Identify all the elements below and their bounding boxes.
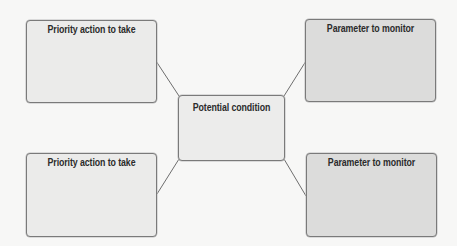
node-top-right-parameter: Parameter to monitor — [305, 19, 436, 102]
node-title: Parameter to monitor — [315, 157, 429, 168]
node-top-left-priority-action: Priority action to take — [26, 20, 157, 103]
node-title: Priority action to take — [35, 157, 149, 168]
node-bottom-left-priority-action: Priority action to take — [26, 153, 157, 237]
node-title: Parameter to monitor — [314, 23, 428, 34]
connector-top-right — [284, 61, 306, 96]
node-bottom-right-parameter: Parameter to monitor — [306, 153, 437, 237]
center-title: Potential condition — [185, 102, 277, 113]
node-center-potential-condition: Potential condition — [178, 95, 285, 161]
node-title: Priority action to take — [35, 24, 149, 35]
connector-bottom-right — [284, 159, 306, 196]
connector-top-left — [156, 61, 179, 96]
connector-bottom-left — [157, 159, 179, 194]
